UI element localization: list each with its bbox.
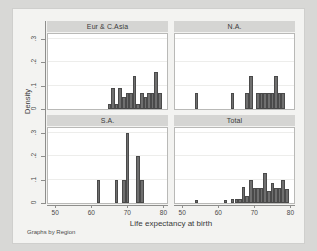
panel-title: Total [174, 115, 295, 126]
panel-title: Eur & C.Asia [47, 21, 168, 32]
panel-0: Eur & C.Asia [47, 21, 168, 110]
histogram-bar [224, 200, 228, 203]
y-tick-mark [41, 133, 45, 134]
x-axis-ticks: 5060708050607080 [47, 205, 295, 219]
x-tick-label: 80 [283, 209, 297, 216]
bar-series [175, 128, 294, 203]
x-axis-title: Life expectancy at birth [47, 219, 295, 228]
y-axis-line [45, 21, 46, 204]
y-tick-label: .2 [30, 150, 37, 162]
y-tick-label: 0 [30, 103, 37, 115]
histogram-bar [285, 189, 289, 203]
y-tick-label: .3 [30, 126, 37, 138]
y-tick-mark [41, 203, 45, 204]
panel-1: N.A. [174, 21, 295, 110]
x-tick-label: 60 [84, 209, 98, 216]
histogram-bar [158, 93, 162, 109]
graph-note: Graphs by Region [27, 229, 75, 235]
y-tick-label: .2 [30, 56, 37, 68]
x-tick-mark [127, 205, 128, 208]
x-tick-mark [218, 205, 219, 208]
histogram-bar [97, 180, 101, 203]
y-tick-mark [41, 156, 45, 157]
histogram-bar [231, 93, 235, 109]
y-tick-mark [41, 39, 45, 40]
plot-area [47, 127, 168, 204]
x-axis-line [47, 205, 168, 206]
plot-area [47, 33, 168, 110]
panel-grid: Eur & C.AsiaN.A.S.A.Total [47, 21, 295, 204]
histogram-bar [281, 93, 285, 109]
x-tick-label: 50 [48, 209, 62, 216]
x-tick-mark [290, 205, 291, 208]
panel-title: N.A. [174, 21, 295, 32]
y-tick-label: .1 [30, 173, 37, 185]
histogram-bar [249, 76, 253, 109]
x-tick-mark [182, 205, 183, 208]
panel-title: S.A. [47, 115, 168, 126]
y-tick-mark [41, 62, 45, 63]
graph-canvas: Density 0.1.2.30.1.2.3 Eur & C.AsiaN.A.S… [12, 8, 305, 244]
x-tick-label: 80 [156, 209, 170, 216]
panel-2: S.A. [47, 115, 168, 204]
x-tick-mark [254, 205, 255, 208]
x-tick-mark [55, 205, 56, 208]
x-tick-mark [163, 205, 164, 208]
histogram-bar [195, 200, 199, 203]
y-tick-mark [41, 86, 45, 87]
y-tick-label: 0 [30, 197, 37, 209]
x-tick-label: 70 [247, 209, 261, 216]
y-tick-mark [41, 109, 45, 110]
panel-3: Total [174, 115, 295, 204]
plot-area [174, 127, 295, 204]
bar-series [175, 34, 294, 109]
x-tick-label: 70 [120, 209, 134, 216]
x-tick-label: 50 [175, 209, 189, 216]
x-tick-label: 60 [211, 209, 225, 216]
bar-series [48, 34, 167, 109]
plot-area [174, 33, 295, 110]
y-tick-label: .1 [30, 79, 37, 91]
histogram-bar [195, 93, 199, 109]
y-tick-mark [41, 180, 45, 181]
histogram-bar [126, 133, 130, 203]
y-tick-label: .3 [30, 32, 37, 44]
x-tick-mark [91, 205, 92, 208]
bar-series [48, 128, 167, 203]
x-axis-line [174, 205, 295, 206]
histogram-bar [115, 180, 119, 203]
histogram-bar [140, 180, 144, 203]
